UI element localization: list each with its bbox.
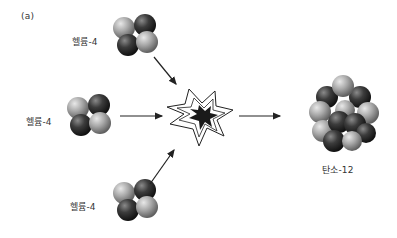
carbon-nucleus [309,75,379,152]
helium-nucleus-middle [67,94,111,136]
arrow-bottom [150,150,174,184]
helium-nucleus-top [113,14,158,56]
helium-nucleus-bottom [113,179,158,221]
arrow-top [154,57,176,84]
diagram-graphics [0,0,397,238]
fusion-burst-icon [167,89,233,146]
